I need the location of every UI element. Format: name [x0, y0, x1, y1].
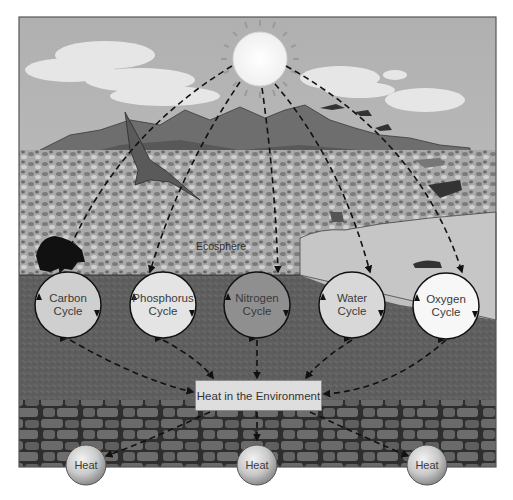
cycle-phosphorus[interactable]	[130, 272, 196, 338]
heat-output-1	[66, 445, 106, 485]
cycle-oxygen[interactable]	[413, 273, 479, 339]
cycle-water[interactable]	[319, 272, 385, 338]
cycle-nitrogen[interactable]	[224, 272, 290, 338]
heat-in-environment-label: Heat in the Environment	[197, 390, 320, 402]
heat-output-3	[407, 445, 447, 485]
cycle-carbon[interactable]	[35, 272, 101, 338]
heat-in-environment-box: Heat in the Environment	[195, 380, 322, 411]
heat-output-2	[237, 445, 277, 485]
ecosphere-diagram	[0, 0, 513, 500]
deer-icon	[330, 212, 344, 222]
